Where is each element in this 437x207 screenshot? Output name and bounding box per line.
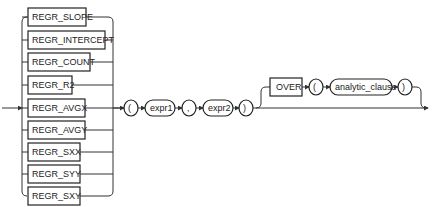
- func-regr-sxx: REGR_SXX: [22, 143, 113, 161]
- svg-text:): ): [402, 82, 405, 92]
- open-paren-token: [124, 100, 138, 116]
- svg-text:REGR_AVGX: REGR_AVGX: [32, 103, 87, 113]
- svg-text:expr1: expr1: [150, 103, 173, 113]
- syntax-diagram: REGR_SLOPE REGR_INTERCEPT REGR_COUNT REG…: [0, 0, 437, 207]
- func-regr-avgy: REGR_AVGY: [22, 121, 113, 139]
- svg-text:REGR_SXX: REGR_SXX: [32, 147, 81, 157]
- argument-sequence: ( expr1 , expr2 ): [113, 100, 253, 116]
- func-regr-count: REGR_COUNT: [22, 53, 113, 71]
- func-regr-avgx: REGR_AVGX: [22, 99, 113, 117]
- func-regr-syy: REGR_SYY: [22, 165, 113, 183]
- svg-text:expr2: expr2: [208, 103, 231, 113]
- optional-over-clause: OVER ( analytic_clause ): [253, 78, 428, 108]
- func-regr-r2: REGR_R2: [22, 76, 113, 94]
- over-close-paren-token: [398, 79, 412, 95]
- svg-text:analytic_clause: analytic_clause: [335, 82, 397, 92]
- svg-text:REGR_INTERCEPT: REGR_INTERCEPT: [32, 35, 115, 45]
- func-regr-sxy: REGR_SXY: [28, 187, 108, 205]
- func-regr-slope: REGR_SLOPE: [22, 8, 108, 26]
- svg-text:(: (: [313, 82, 316, 92]
- svg-text:,: ,: [187, 103, 190, 113]
- svg-text:REGR_SLOPE: REGR_SLOPE: [32, 12, 93, 22]
- function-list: REGR_SLOPE REGR_INTERCEPT REGR_COUNT REG…: [22, 8, 115, 205]
- svg-text:REGR_SYY: REGR_SYY: [32, 169, 81, 179]
- close-paren-token: [239, 100, 253, 116]
- svg-text:REGR_R2: REGR_R2: [32, 80, 75, 90]
- svg-text:REGR_AVGY: REGR_AVGY: [32, 125, 87, 135]
- svg-text:): ): [243, 103, 246, 113]
- svg-text:(: (: [128, 103, 131, 113]
- func-regr-intercept: REGR_INTERCEPT: [22, 31, 115, 49]
- over-open-paren-token: [309, 79, 323, 95]
- svg-text:OVER: OVER: [276, 82, 302, 92]
- svg-text:REGR_SXY: REGR_SXY: [32, 191, 81, 201]
- svg-text:REGR_COUNT: REGR_COUNT: [32, 57, 96, 67]
